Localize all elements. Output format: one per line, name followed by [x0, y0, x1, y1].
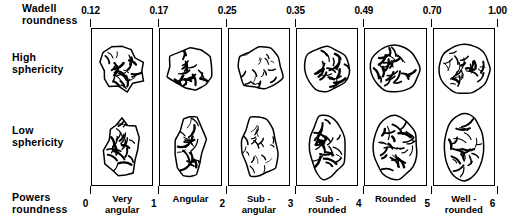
wadell-tick-3: [295, 19, 296, 27]
powers-value-0: 0: [83, 198, 89, 209]
class-label-5: Rounded: [375, 194, 416, 205]
grain-cell-2: [159, 28, 221, 186]
high-sphericity-grain-2: [160, 31, 220, 107]
grain-cell-6: [433, 28, 495, 186]
wadell-value-2: 0.25: [218, 5, 237, 16]
class-label-2: Angular: [173, 194, 209, 205]
grain-cell-5: [364, 28, 426, 186]
wadell-value-5: 0.70: [423, 5, 442, 16]
wadell-value-1: 0.17: [149, 5, 168, 16]
low-sphericity-grain-2: [160, 109, 220, 185]
powers-value-1: 1: [151, 198, 157, 209]
subrounded-equant: [297, 37, 357, 101]
low-sphericity-grain-5: [365, 109, 425, 185]
rounded-elongate: [367, 109, 423, 185]
rounded-equant: [365, 36, 425, 102]
well-rounded-oval: [439, 108, 489, 186]
grain-cell-4: [296, 28, 358, 186]
wadell-value-6: 1.00: [488, 5, 507, 16]
wadell-tick-1: [158, 19, 159, 27]
very-angular-equant: [92, 35, 152, 103]
well-rounded-circular: [434, 34, 494, 104]
low-sphericity-grain-1: [92, 109, 152, 185]
powers-tick-1: [158, 186, 159, 194]
class-label-3: Sub - angular: [242, 194, 276, 215]
powers-tick-4: [363, 186, 364, 194]
low-sphericity-grain-3: [229, 109, 289, 185]
grain-cell-1: [91, 28, 153, 186]
wadell-tick-6: [497, 19, 498, 27]
class-label-1: Very angular: [105, 194, 139, 215]
class-label-4: Sub - rounded: [308, 194, 346, 215]
wadell-roundness-axis-label: Wadell roundness: [22, 3, 77, 26]
roundness-chart: Wadell roundness High sphericity Low sph…: [0, 0, 525, 224]
low-sphericity-grain-4: [297, 109, 357, 185]
powers-value-5: 5: [424, 198, 430, 209]
subrounded-elongate: [302, 108, 352, 186]
powers-value-6: 6: [490, 198, 496, 209]
low-sphericity-row-label: Low sphericity: [12, 125, 64, 148]
subangular-equant: [229, 37, 289, 101]
wadell-value-3: 0.35: [286, 5, 305, 16]
high-sphericity-grain-3: [229, 31, 289, 107]
powers-tick-6: [497, 186, 498, 194]
powers-tick-0: [90, 186, 91, 194]
class-label-6: Well - rounded: [445, 194, 483, 215]
subangular-elongate: [233, 108, 285, 186]
grain-cell-3: [228, 28, 290, 186]
high-sphericity-grain-5: [365, 31, 425, 107]
wadell-tick-0: [90, 19, 91, 27]
high-sphericity-grain-4: [297, 31, 357, 107]
powers-roundness-axis-label: Powers roundness: [12, 192, 67, 215]
high-sphericity-row-label: High sphericity: [12, 52, 64, 75]
wadell-tick-5: [431, 19, 432, 27]
wadell-tick-2: [226, 19, 227, 27]
powers-tick-2: [226, 186, 227, 194]
powers-value-2: 2: [219, 198, 225, 209]
wadell-tick-4: [363, 19, 364, 27]
powers-tick-3: [295, 186, 296, 194]
wadell-value-0: 0.12: [81, 5, 100, 16]
very-angular-elongate: [97, 108, 147, 186]
angular-equant: [160, 37, 220, 101]
wadell-value-4: 0.49: [354, 5, 373, 16]
high-sphericity-grain-6: [434, 31, 494, 107]
low-sphericity-grain-6: [434, 109, 494, 185]
angular-elongate: [168, 107, 212, 187]
high-sphericity-grain-1: [92, 31, 152, 107]
powers-value-3: 3: [288, 198, 294, 209]
powers-tick-5: [431, 186, 432, 194]
powers-value-4: 4: [356, 198, 362, 209]
